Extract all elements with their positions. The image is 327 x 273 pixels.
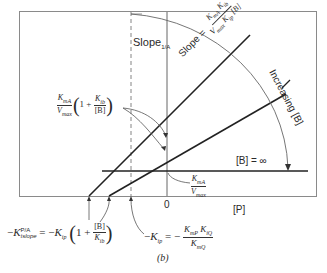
k-slope-expression: −KP/Aislope = −Kip (1 + [B]Kib) bbox=[7, 223, 113, 244]
line-low-b bbox=[89, 35, 250, 196]
x-axis-label: [P] bbox=[233, 205, 245, 215]
arc-arrowhead-icon bbox=[285, 164, 291, 171]
k-ip-expression: −Kip = − KmP KiQKmQ bbox=[144, 225, 213, 250]
figure-label: (b) bbox=[157, 253, 169, 263]
kma-vmax-label: KmAVmax bbox=[190, 175, 207, 197]
origin-label: 0 bbox=[164, 200, 170, 210]
slope-1a-label: Slope1/A bbox=[133, 37, 170, 50]
b-infinity-label: [B] = ∞ bbox=[236, 156, 267, 166]
y-intercept-expression: KmAVmax(1 + Kib[B]) bbox=[56, 94, 113, 116]
